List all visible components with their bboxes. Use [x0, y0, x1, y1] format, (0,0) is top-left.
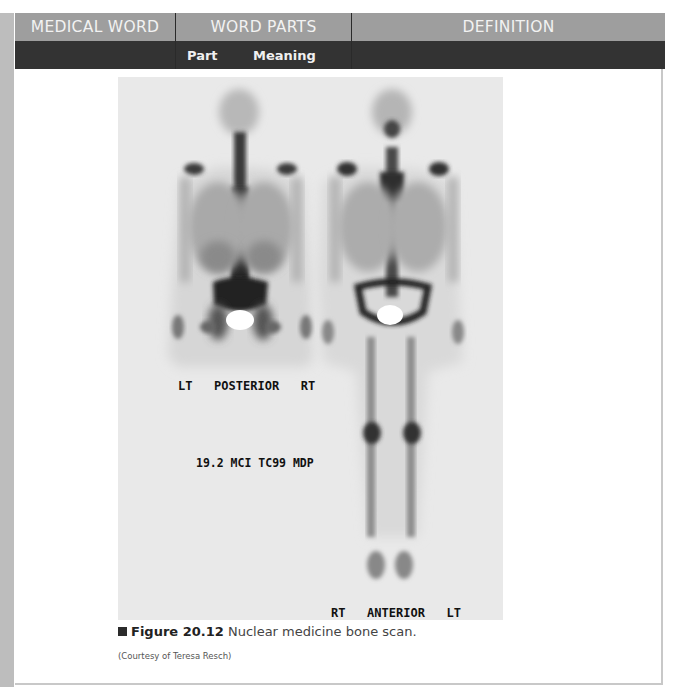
figure-credit: (Courtesy of Teresa Resch)	[118, 651, 231, 661]
subheader-part-label: Part	[187, 48, 218, 63]
bone-scan-image: LT POSTERIOR RT 19.2 MCI TC99 MDP RT ANT…	[118, 77, 503, 620]
column-header-label: DEFINITION	[462, 18, 554, 36]
bullet-square-icon	[118, 627, 127, 636]
column-divider	[175, 13, 176, 69]
left-margin-bar	[0, 13, 14, 687]
posterior-label: LT POSTERIOR RT	[178, 379, 315, 393]
column-header-medical-word: MEDICAL WORD	[15, 13, 175, 41]
column-header-label: MEDICAL WORD	[31, 18, 160, 36]
figure-caption-text: Nuclear medicine bone scan.	[224, 624, 417, 639]
anterior-label: RT ANTERIOR LT	[331, 606, 461, 620]
dose-label: 19.2 MCI TC99 MDP	[196, 456, 314, 470]
column-divider	[351, 13, 352, 69]
figure-number: Figure 20.12	[131, 624, 224, 639]
subheader-meaning-label: Meaning	[253, 48, 316, 63]
figure-caption: Figure 20.12 Nuclear medicine bone scan.	[118, 624, 417, 639]
subheader-part: Part	[187, 41, 247, 69]
column-header-label: WORD PARTS	[210, 18, 316, 36]
table-subheader-row: Part Meaning	[15, 41, 665, 69]
column-header-word-parts: WORD PARTS	[176, 13, 351, 41]
table-header-row: MEDICAL WORD WORD PARTS DEFINITION	[15, 13, 665, 41]
column-header-definition: DEFINITION	[352, 13, 665, 41]
subheader-meaning: Meaning	[253, 41, 353, 69]
